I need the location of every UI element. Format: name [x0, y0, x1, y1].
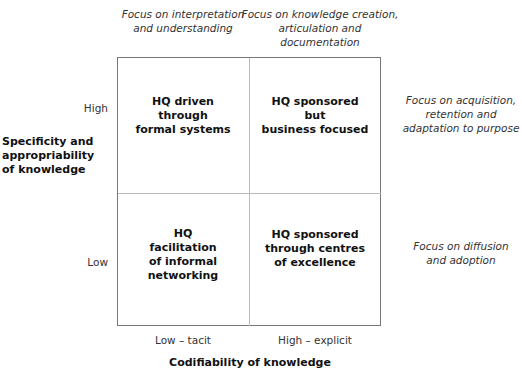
- quadrant-top-left-label: HQ driven through formal systems: [135, 95, 230, 137]
- x-axis-low-label: Low – tacit: [118, 334, 248, 346]
- x-axis-title: Codifiability of knowledge: [118, 356, 382, 370]
- quadrant-bottom-right: HQ sponsored through centres of excellen…: [250, 194, 380, 326]
- top-annotation-right: Focus on knowledge creation, articulatio…: [240, 7, 400, 49]
- quadrant-top-left: HQ driven through formal systems: [118, 58, 248, 193]
- quadrant-bottom-right-label: HQ sponsored through centres of excellen…: [265, 228, 365, 270]
- quadrant-top-right: HQ sponsored but business focused: [250, 58, 380, 193]
- quadrant-bottom-left-label: HQ facilitation of informal networking: [148, 227, 219, 283]
- y-axis-title: Specificity and appropriability of knowl…: [0, 135, 112, 177]
- y-axis-high-label: High: [60, 102, 108, 114]
- top-annotation-left: Focus on interpretation and understandin…: [118, 7, 248, 35]
- right-annotation-bottom: Focus on diffusion and adoption: [400, 239, 522, 267]
- quadrant-bottom-left: HQ facilitation of informal networking: [118, 194, 248, 326]
- y-axis-low-label: Low: [60, 256, 108, 268]
- right-annotation-top: Focus on acquisition, retention and adap…: [400, 93, 522, 135]
- x-axis-high-label: High – explicit: [250, 334, 380, 346]
- quadrant-top-right-label: HQ sponsored but business focused: [262, 95, 369, 137]
